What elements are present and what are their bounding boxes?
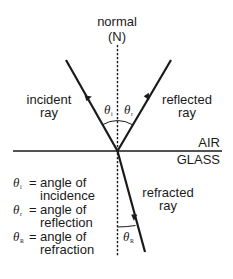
svg-text:R: R bbox=[130, 238, 134, 244]
svg-text:incidence: incidence bbox=[40, 188, 95, 203]
svg-text:r: r bbox=[131, 111, 133, 117]
legend-item-reflection: θ r = angle of reflection bbox=[13, 202, 93, 230]
normal-label: normal bbox=[97, 14, 137, 29]
air-medium-label: AIR bbox=[198, 135, 220, 150]
reflected-ray-arrow-icon bbox=[144, 93, 150, 100]
svg-text:θ: θ bbox=[13, 175, 20, 190]
reflection-angle-arc bbox=[118, 121, 133, 125]
refraction-angle-arc bbox=[118, 226, 136, 228]
svg-text:=: = bbox=[29, 202, 37, 217]
svg-text:θ: θ bbox=[13, 229, 20, 244]
svg-text:reflection: reflection bbox=[40, 215, 93, 230]
legend: θ i = angle of incidence θ r = angle of … bbox=[13, 175, 95, 257]
normal-symbol-label: (N) bbox=[108, 29, 126, 44]
angle-of-refraction-symbol: θ R bbox=[123, 229, 134, 244]
svg-text:i: i bbox=[20, 184, 22, 190]
svg-text:R: R bbox=[20, 238, 24, 244]
svg-text:i: i bbox=[111, 111, 113, 117]
svg-text:θ: θ bbox=[104, 102, 111, 117]
svg-text:θ: θ bbox=[13, 202, 20, 217]
glass-medium-label: GLASS bbox=[177, 152, 221, 167]
svg-text:=: = bbox=[29, 175, 37, 190]
svg-text:refraction: refraction bbox=[40, 242, 94, 257]
angle-of-incidence-symbol: θ i bbox=[104, 102, 113, 117]
svg-text:=: = bbox=[29, 229, 37, 244]
legend-item-incidence: θ i = angle of incidence bbox=[13, 175, 95, 203]
reflection-refraction-diagram: normal (N) incident ray reflected ray re… bbox=[0, 0, 233, 279]
refracted-ray bbox=[118, 151, 146, 252]
svg-text:θ: θ bbox=[123, 229, 130, 244]
angle-of-reflection-symbol: θ r bbox=[124, 102, 133, 117]
svg-text:r: r bbox=[20, 211, 22, 217]
reflected-ray-label-line2: ray bbox=[178, 105, 197, 120]
incident-ray-label-line2: ray bbox=[40, 105, 59, 120]
svg-text:θ: θ bbox=[124, 102, 131, 117]
incidence-angle-arc bbox=[103, 121, 118, 125]
refracted-ray-label-line2: ray bbox=[159, 198, 178, 213]
legend-item-refraction: θ R = angle of refraction bbox=[13, 229, 94, 257]
